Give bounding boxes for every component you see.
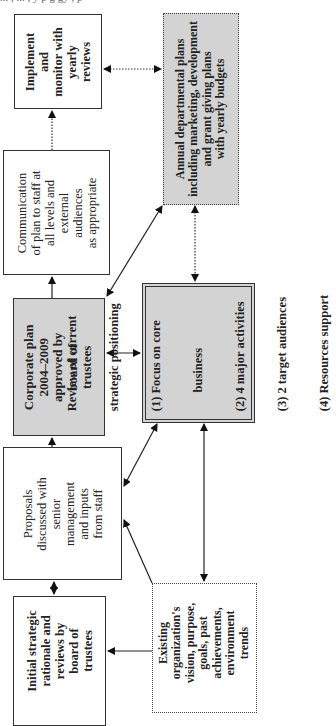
node-text: with yearly budgets [214, 21, 227, 197]
node-review-positioning: Review of current strategic positioning … [142, 283, 255, 423]
edge-proposals-review [124, 424, 157, 486]
node-text: all levels and [42, 170, 56, 255]
node-text: Proposals [20, 477, 34, 550]
node-text: Corporate plan [23, 324, 38, 410]
edge-existing-proposals [124, 520, 152, 583]
node-text: environment [225, 603, 238, 683]
node-text: Communication [14, 170, 28, 255]
node-text: audiences [70, 170, 84, 255]
node-text: Initial strategic [25, 610, 39, 692]
node-text: external [56, 170, 70, 255]
node-text: Review of current [66, 295, 80, 411]
node-text: (1) Focus on core [150, 295, 164, 411]
node-text: reviews [79, 27, 93, 97]
node-text: management [62, 477, 76, 550]
node-text: monitor with [51, 27, 65, 97]
node-text: of plan to staff at [28, 170, 42, 255]
node-text: trustees [81, 610, 95, 692]
node-text: (4) Resources support [318, 295, 332, 411]
node-annual-plans: Annual departmental plans including mark… [163, 13, 239, 205]
node-text: senior [48, 477, 62, 550]
node-text: yearly [65, 27, 79, 97]
node-implement: Implement and monitor with yearly review… [14, 14, 102, 109]
node-text: (3) 2 target audiences [276, 295, 290, 411]
node-text: discussed with [34, 477, 48, 550]
node-text: strategic positioning [108, 295, 122, 411]
node-proposals: Proposals discussed with senior manageme… [3, 447, 122, 580]
node-text: board of [67, 610, 81, 692]
node-text: and inputs [76, 477, 90, 550]
node-existing-vision: Existing organization's vision, purpose,… [152, 583, 257, 713]
node-text: Implement [23, 27, 37, 97]
node-text: business [192, 295, 206, 411]
node-communication: Communication of plan to staff at all le… [3, 150, 110, 275]
node-text: and [37, 27, 51, 97]
node-text: rationale and [39, 610, 53, 692]
node-text: trends [238, 603, 251, 683]
node-text: from staff [90, 477, 104, 550]
node-text: reviews by [53, 610, 67, 692]
node-initial-strategic: Initial strategic rationale and reviews … [13, 596, 106, 726]
node-text: (2) 4 major activities [234, 295, 248, 411]
node-text: as appropriate [84, 170, 98, 255]
